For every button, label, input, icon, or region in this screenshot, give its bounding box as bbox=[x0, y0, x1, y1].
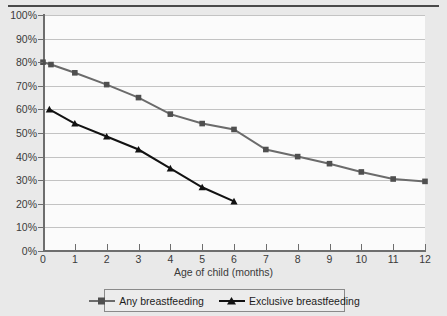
square-marker-icon bbox=[48, 62, 54, 68]
triangle-marker-icon bbox=[219, 296, 245, 306]
square-marker-icon bbox=[359, 169, 365, 175]
square-marker-icon bbox=[231, 127, 237, 133]
square-marker-icon bbox=[199, 121, 205, 127]
square-marker-icon bbox=[327, 161, 333, 167]
chart-legend: Any breastfeeding Exclusive breastfeedin… bbox=[104, 289, 345, 312]
y-axis-tick bbox=[38, 15, 43, 16]
series-line bbox=[43, 62, 425, 181]
y-axis-tick bbox=[38, 133, 43, 134]
square-marker-icon bbox=[263, 147, 269, 153]
y-axis-tick bbox=[38, 180, 43, 181]
triangle-marker-icon bbox=[46, 106, 53, 113]
square-marker-icon bbox=[89, 296, 115, 306]
y-axis-tick bbox=[38, 109, 43, 110]
square-marker-icon bbox=[72, 70, 78, 76]
square-marker-icon bbox=[136, 95, 142, 101]
y-axis-tick bbox=[38, 204, 43, 205]
y-axis-tick bbox=[38, 62, 43, 63]
y-axis-tick bbox=[38, 227, 43, 228]
y-axis-tick bbox=[38, 157, 43, 158]
y-axis-tick bbox=[38, 39, 43, 40]
square-marker-icon bbox=[390, 176, 396, 182]
series-layer bbox=[0, 0, 447, 316]
y-axis-tick bbox=[38, 251, 43, 252]
series-line bbox=[49, 109, 234, 201]
legend-item-exclusive-breastfeeding[interactable]: Exclusive breastfeeding bbox=[219, 295, 360, 307]
legend-label: Exclusive breastfeeding bbox=[249, 295, 360, 307]
legend-item-any-breastfeeding[interactable]: Any breastfeeding bbox=[89, 295, 204, 307]
square-marker-icon bbox=[104, 82, 110, 88]
square-marker-icon bbox=[422, 179, 428, 185]
square-marker-icon bbox=[168, 111, 174, 117]
chart-figure: 0%10%20%30%40%50%60%70%80%90%100% 012345… bbox=[0, 0, 447, 316]
square-marker-icon bbox=[295, 154, 301, 160]
y-axis-tick bbox=[38, 86, 43, 87]
legend-label: Any breastfeeding bbox=[119, 295, 204, 307]
